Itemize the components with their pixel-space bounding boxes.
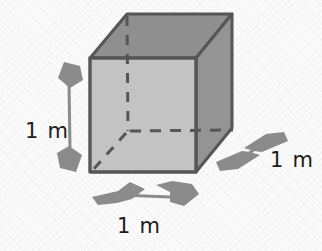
height-arrow-head-up [58,62,83,88]
height-arrow-shaft [69,84,70,150]
width-label: 1 m [117,214,161,238]
front-face [90,58,196,172]
depth-arrow-head-lower [216,151,260,171]
figure-canvas: 1 m 1 m 1 m [0,0,322,251]
height-dimension-arrow [57,62,83,172]
cube-dimension-figure: 1 m 1 m 1 m [0,0,322,251]
height-label: 1 m [25,119,69,143]
cube [90,14,233,172]
depth-label: 1 m [270,148,314,172]
width-arrow-head-right [156,181,199,206]
height-arrow-head-down [57,146,82,172]
width-arrow-head-left [92,182,145,205]
width-dimension-arrow [92,181,199,206]
